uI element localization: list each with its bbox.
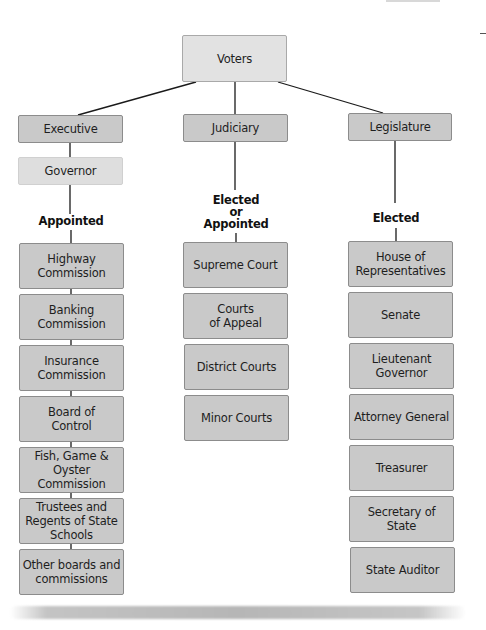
office-box-minor-courts: Minor Courts — [184, 395, 289, 441]
office-box-banking-commission: Banking Commission — [19, 294, 124, 340]
office-box-attorney-general: Attorney General — [349, 394, 454, 440]
governor-box: Governor — [18, 157, 123, 185]
executive-selection-label: Appointed — [30, 215, 112, 227]
office-box-district-courts: District Courts — [184, 344, 289, 390]
judiciary-selection-label: Elected or Appointed — [195, 194, 277, 230]
office-box-house-of-representatives: House of Representatives — [348, 241, 453, 287]
office-box-senate: Senate — [348, 292, 453, 338]
office-box-other-boards: Other boards and commissions — [19, 549, 124, 595]
office-box-trustees-regents: Trustees and Regents of State Schools — [19, 498, 124, 544]
legislature-box: Legislature — [348, 113, 452, 141]
bottom-shadow-bar — [10, 606, 466, 619]
office-box-lieutenant-governor: Lieutenant Governor — [349, 343, 454, 389]
voters-box: Voters — [182, 35, 287, 82]
office-box-secretary-of-state: Secretary of State — [349, 496, 454, 542]
org-chart: Voters Executive Judiciary Legislature G… — [0, 0, 486, 630]
executive-box: Executive — [18, 115, 123, 143]
office-box-board-of-control: Board of Control — [19, 396, 124, 442]
legislature-selection-label: Elected — [356, 212, 436, 224]
office-box-state-auditor: State Auditor — [350, 547, 455, 593]
office-box-courts-of-appeal: Courts of Appeal — [183, 293, 288, 339]
office-box-fish-game-oyster: Fish, Game & Oyster Commission — [19, 447, 124, 493]
office-box-treasurer: Treasurer — [349, 445, 454, 491]
judiciary-box: Judiciary — [183, 114, 288, 142]
office-box-highway-commission: Highway Commission — [19, 243, 124, 289]
office-box-insurance-commission: Insurance Commission — [19, 345, 124, 391]
office-box-supreme-court: Supreme Court — [183, 242, 288, 288]
